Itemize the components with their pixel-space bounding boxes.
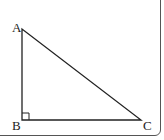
vertex-label-c: C <box>143 118 152 133</box>
right-angle-marker <box>22 113 29 120</box>
triangle-abc <box>22 29 141 120</box>
triangle-diagram: A B C <box>0 0 164 140</box>
vertex-label-b: B <box>12 118 21 133</box>
diagram-frame: A B C <box>0 0 164 140</box>
vertex-label-a: A <box>12 20 22 35</box>
